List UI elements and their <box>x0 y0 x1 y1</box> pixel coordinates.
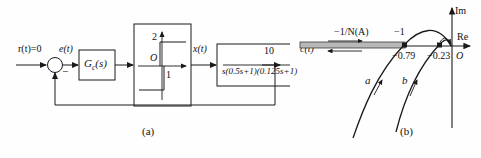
intersection-label-a: −0.79 <box>392 51 415 61</box>
controller-block-label: Gc(s) <box>84 58 107 72</box>
nonlinearity-output-level-label: 2 <box>152 32 157 42</box>
nonlinearity-switch-level-label: 1 <box>166 70 171 80</box>
feedback-sign-label: − <box>62 66 68 77</box>
error-signal-label: e(t) <box>59 44 73 54</box>
imaginary-axis-label: Im <box>455 6 466 16</box>
panel-a-block-diagram: r(t)=0 e(t) − Gc(s) 2 O 1 x(t) 10 s(0.5s… <box>0 0 290 158</box>
real-axis-label: Re <box>457 32 468 42</box>
reference-signal-label: r(t)=0 <box>18 44 41 54</box>
intersection-markers <box>402 43 442 48</box>
nonlinearity-origin-label: O <box>150 53 157 63</box>
panel-a-caption: (a) <box>142 126 154 137</box>
origin-label: O <box>456 51 463 61</box>
nyquist-plot-svg <box>290 0 481 158</box>
describing-function-band <box>300 41 405 51</box>
plant-numerator-label: 10 <box>264 46 274 56</box>
intersection-label-b: −0.23 <box>427 51 450 61</box>
nonlinearity-output-signal-label: x(t) <box>193 44 207 54</box>
critical-point-label: −1 <box>394 27 405 37</box>
plant-denominator-label: s(0.5s+1)(0.125s+1) <box>222 67 297 76</box>
curve-label-a: a <box>365 75 371 86</box>
curve-label-b: b <box>402 75 408 86</box>
panel-b-caption: (b) <box>400 126 413 137</box>
panel-b-nyquist-plot: −1/N(A) −1 −0.79 −0.23 O Re Im a b (b) <box>290 0 481 158</box>
describing-function-label: −1/N(A) <box>334 27 369 37</box>
figure-root: r(t)=0 e(t) − Gc(s) 2 O 1 x(t) 10 s(0.5s… <box>0 0 481 158</box>
